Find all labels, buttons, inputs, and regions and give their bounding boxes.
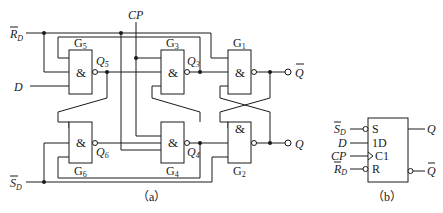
inner-1d-label: 1D bbox=[372, 136, 387, 150]
rd-to-g4 bbox=[121, 33, 161, 150]
inverter-bubble bbox=[408, 169, 413, 174]
junction-dot bbox=[134, 56, 138, 60]
figure-b-symbol: S 1D C1 R SD D CP RD Q Q （b） bbox=[331, 118, 436, 204]
inverter-bubble bbox=[363, 127, 368, 132]
inverter-bubble bbox=[185, 70, 190, 75]
and-symbol: & bbox=[168, 135, 178, 150]
and-symbol: & bbox=[76, 65, 86, 80]
qbar-output-label: Q bbox=[295, 66, 304, 80]
d-flip-flop-diagram: RD SD D CP G5 G3 G1 G6 G4 G2 & & & & & &… bbox=[0, 0, 443, 213]
junction-dot bbox=[198, 70, 202, 74]
junction-dot bbox=[42, 31, 46, 35]
inverter-bubble bbox=[363, 167, 368, 172]
g1-label: G1 bbox=[233, 36, 246, 51]
rd-to-g1 bbox=[211, 33, 228, 58]
caption-b: （b） bbox=[372, 190, 402, 204]
g3-label: G3 bbox=[166, 36, 179, 51]
and-symbol: & bbox=[76, 135, 86, 150]
ext-q-label: Q bbox=[427, 122, 436, 136]
junction-dot bbox=[198, 141, 202, 145]
ext-d-label: D bbox=[337, 136, 347, 150]
cp-label: CP bbox=[128, 8, 144, 22]
and-symbol: & bbox=[235, 65, 245, 80]
caption-a: （a） bbox=[137, 190, 166, 204]
d-label: D bbox=[13, 80, 23, 94]
q5-label: Q5 bbox=[96, 54, 109, 69]
q6-label: Q6 bbox=[96, 145, 109, 160]
inverter-bubble bbox=[93, 70, 98, 75]
q-output-label: Q bbox=[295, 137, 304, 151]
q4-label: Q4 bbox=[187, 145, 200, 160]
figure-a-circuit: RD SD D CP G5 G3 G1 G6 G4 G2 & & & & & &… bbox=[9, 8, 304, 204]
q3-label: Q3 bbox=[187, 54, 200, 69]
ext-sd-label: SD bbox=[334, 122, 346, 137]
and-symbol: & bbox=[235, 121, 245, 136]
g5-label: G5 bbox=[74, 36, 87, 51]
and-symbol: & bbox=[168, 65, 178, 80]
junction-dot bbox=[119, 31, 123, 35]
output-terminal-qbar bbox=[285, 69, 291, 75]
rd-to-g5 bbox=[44, 33, 69, 72]
ext-rd-label: RD bbox=[333, 162, 347, 177]
inner-r-label: R bbox=[372, 162, 380, 176]
inner-c1-label: C1 bbox=[375, 149, 389, 163]
sd-label: SD bbox=[10, 176, 22, 192]
g4-label: G4 bbox=[166, 164, 179, 179]
junction-dot bbox=[268, 141, 272, 145]
inverter-bubble bbox=[252, 141, 257, 146]
ext-qbar-label: Q bbox=[427, 164, 436, 178]
g6-label: G6 bbox=[74, 164, 87, 179]
sd-to-g6 bbox=[44, 143, 69, 182]
g2-label: G2 bbox=[233, 164, 246, 179]
inner-s-label: S bbox=[372, 122, 379, 136]
output-terminal-q bbox=[285, 140, 291, 146]
rd-label: RD bbox=[9, 27, 23, 43]
junction-dot bbox=[42, 180, 46, 184]
inverter-bubble bbox=[252, 70, 257, 75]
ext-cp-label: CP bbox=[331, 149, 347, 163]
